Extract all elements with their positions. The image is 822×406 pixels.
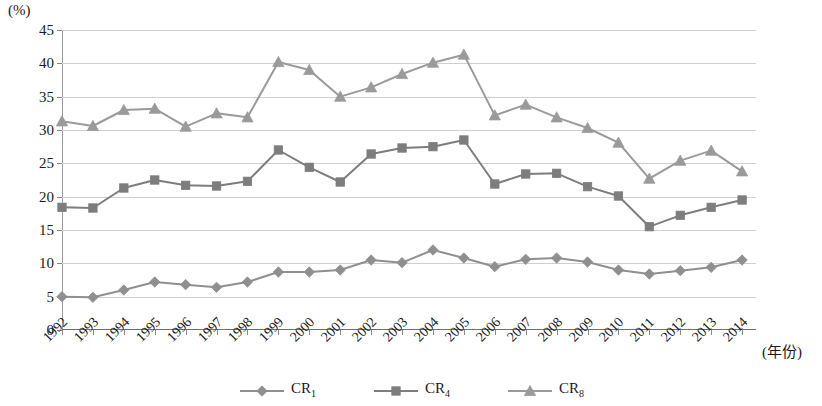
y-axis-tick-label: 5: [14, 289, 54, 304]
data-point: [211, 108, 222, 118]
data-point: [151, 176, 159, 184]
data-point: [304, 267, 314, 277]
data-point: [397, 257, 407, 267]
data-point: [273, 56, 284, 66]
legend-marker-square-icon: [372, 383, 420, 399]
data-point: [613, 137, 624, 147]
data-point: [736, 166, 747, 176]
data-point: [521, 170, 529, 178]
legend-marker-diamond-icon: [238, 383, 286, 399]
y-axis-tick-label: 20: [14, 189, 54, 204]
data-point: [212, 182, 220, 190]
data-point: [676, 211, 684, 219]
data-point: [398, 144, 406, 152]
data-point: [491, 180, 499, 188]
y-axis-tick-label: 40: [14, 56, 54, 71]
legend-label: CR1: [291, 380, 316, 402]
data-point: [57, 291, 67, 301]
series-CR1: [57, 245, 747, 303]
data-point: [335, 265, 345, 275]
data-point: [274, 146, 282, 154]
data-point: [242, 277, 252, 287]
series-layer: [62, 30, 756, 330]
legend-label-subscript: 1: [311, 388, 316, 399]
data-point: [706, 262, 716, 272]
data-point: [583, 182, 591, 190]
data-point: [180, 279, 190, 289]
y-axis-tick-label: 15: [14, 223, 54, 238]
data-point: [551, 112, 562, 122]
x-axis-title: (年份): [762, 344, 802, 360]
data-point: [737, 255, 747, 265]
series-line: [62, 140, 742, 227]
legend-item-CR1[interactable]: CR1: [238, 380, 316, 402]
data-point: [58, 203, 66, 211]
legend-item-CR8[interactable]: CR8: [506, 380, 584, 402]
chart-legend: CR1CR4CR8: [0, 378, 822, 404]
data-point: [119, 285, 129, 295]
data-point: [582, 257, 592, 267]
data-point: [707, 203, 715, 211]
series-CR4: [58, 136, 746, 231]
data-point: [738, 196, 746, 204]
y-axis-tick-label: 25: [14, 156, 54, 171]
data-point: [644, 269, 654, 279]
data-point: [88, 292, 98, 302]
data-point: [181, 181, 189, 189]
data-point: [458, 49, 469, 59]
data-point: [520, 254, 530, 264]
data-point: [273, 267, 283, 277]
data-point: [366, 255, 376, 265]
data-point: [150, 277, 160, 287]
y-axis-tick-labels: 051015202530354045: [10, 0, 54, 406]
data-point: [305, 163, 313, 171]
plot-area: [62, 30, 756, 330]
data-point: [645, 222, 653, 230]
data-point: [243, 177, 251, 185]
x-axis-tick-labels: 1992199319941995199619971998199920002001…: [62, 330, 756, 378]
data-point: [613, 265, 623, 275]
data-point: [120, 184, 128, 192]
legend-marker-triangle-icon: [506, 383, 554, 399]
data-point: [367, 150, 375, 158]
legend-label-subscript: 4: [445, 388, 450, 399]
legend-item-CR4[interactable]: CR4: [372, 380, 450, 402]
data-point: [551, 253, 561, 263]
data-point: [706, 145, 717, 155]
data-point: [490, 261, 500, 271]
legend-label: CR4: [425, 380, 450, 402]
y-axis-tick-label: 10: [14, 256, 54, 271]
data-point: [56, 116, 67, 126]
line-chart: (%) 051015202530354045 19921993199419951…: [0, 0, 822, 406]
y-axis-tick-label: 30: [14, 123, 54, 138]
data-point: [614, 192, 622, 200]
legend-label: CR8: [559, 380, 584, 402]
data-point: [180, 121, 191, 131]
data-point: [211, 282, 221, 292]
y-axis-tick-label: 45: [14, 23, 54, 38]
data-point: [89, 204, 97, 212]
data-point: [428, 245, 438, 255]
series-CR8: [56, 49, 747, 183]
data-point: [336, 178, 344, 186]
data-point: [552, 169, 560, 177]
y-axis-tick-label: 35: [14, 89, 54, 104]
data-point: [429, 142, 437, 150]
legend-label-subscript: 8: [579, 388, 584, 399]
data-point: [675, 265, 685, 275]
data-point: [366, 82, 377, 92]
data-point: [520, 99, 531, 109]
data-point: [460, 136, 468, 144]
data-point: [459, 253, 469, 263]
